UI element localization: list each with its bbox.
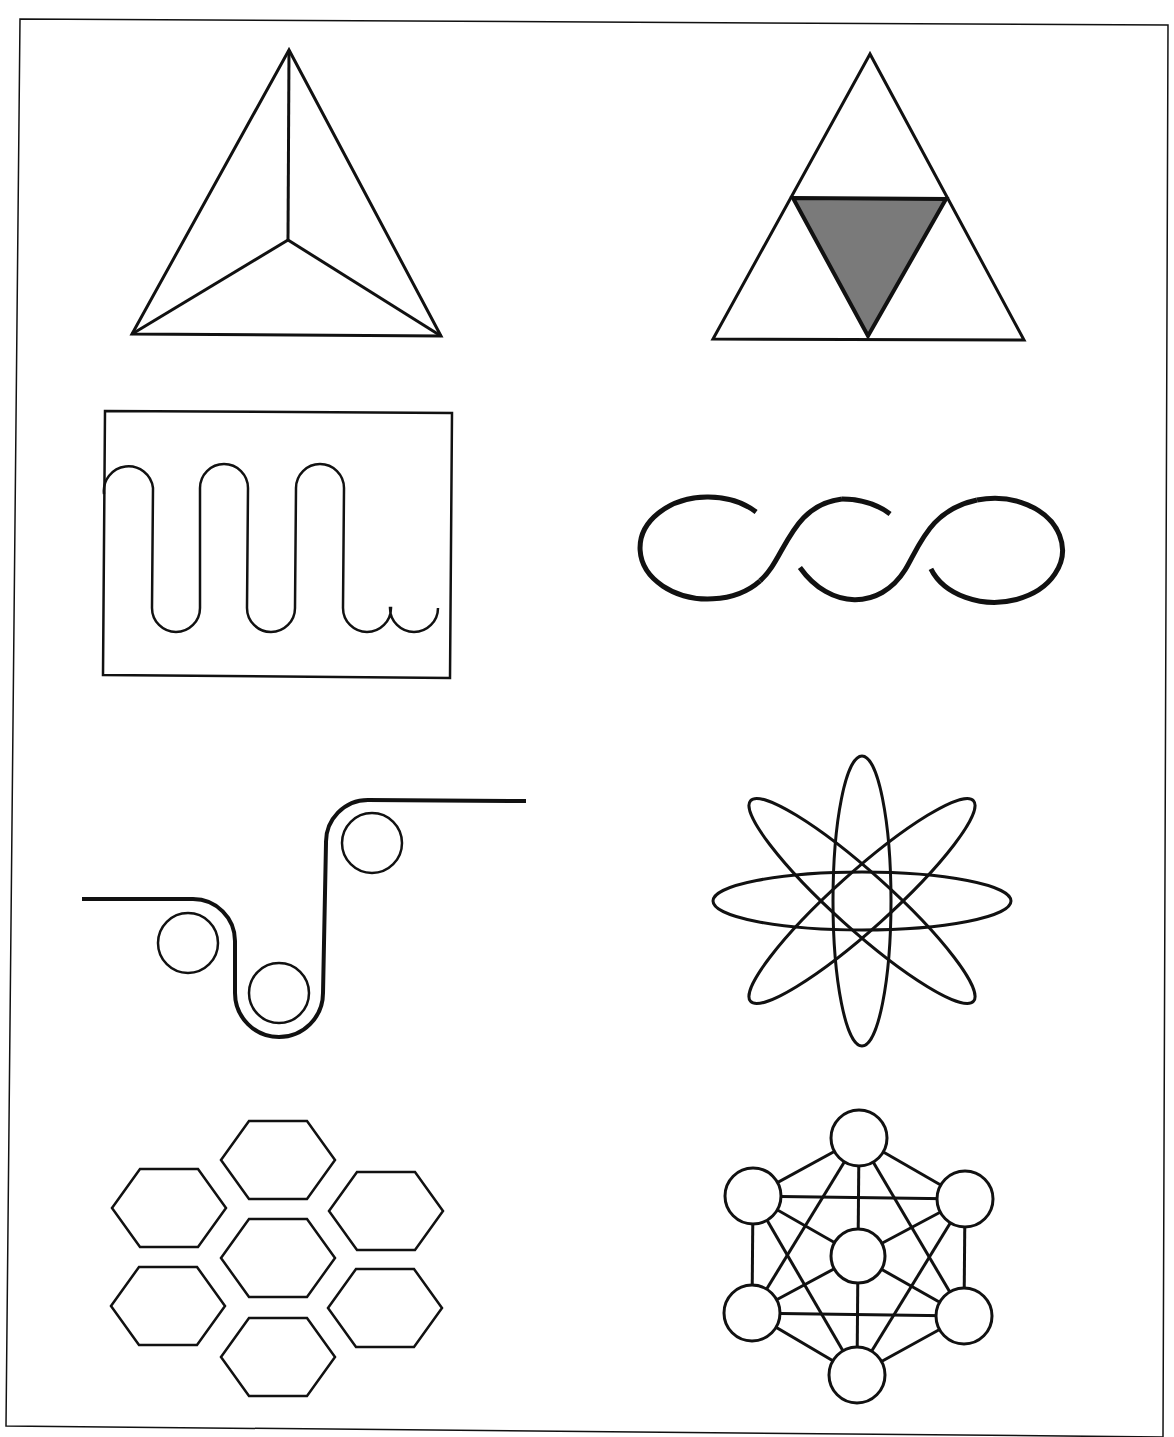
roller-circle (158, 913, 218, 973)
hexagon (328, 1269, 442, 1347)
hexagon (221, 1318, 335, 1396)
tetrahedron-figure (132, 50, 441, 336)
shaded-triangle-figure (713, 54, 1024, 340)
atom-figure (713, 756, 1011, 1046)
network-node (831, 1229, 885, 1283)
loop-right (931, 498, 1063, 602)
edge-line (132, 240, 288, 334)
page-frame (6, 19, 1168, 1437)
roller-path-figure (82, 800, 526, 1037)
orbit-ellipse (833, 756, 891, 1046)
node-network-figure (724, 1110, 993, 1403)
hexagon (221, 1219, 335, 1297)
serpentine-wave (104, 464, 438, 632)
belt-path (82, 800, 526, 1037)
edge-line (288, 240, 441, 336)
network-node (725, 1168, 781, 1224)
honeycomb-figure (111, 1121, 443, 1396)
orbit-ellipse (713, 872, 1011, 930)
orbit-ellipse (732, 780, 992, 1022)
network-edge (752, 1313, 964, 1316)
hexagon (111, 1267, 225, 1345)
orbit-ellipse (732, 780, 992, 1022)
edge-line (288, 50, 289, 240)
hexagon (112, 1169, 226, 1247)
serpentine-box-figure (103, 411, 452, 678)
shaded-triangle (793, 198, 946, 336)
loop-middle-top (842, 499, 890, 514)
figure-page (0, 0, 1174, 1437)
network-node (937, 1171, 993, 1227)
roller-circle (342, 813, 402, 873)
box-outline (103, 411, 452, 678)
twisted-loops-figure (640, 497, 1062, 602)
hexagon (221, 1121, 335, 1199)
hexagon (329, 1172, 443, 1250)
network-node (724, 1285, 780, 1341)
roller-circle (249, 963, 309, 1023)
loop-left (640, 497, 760, 599)
network-edge (753, 1196, 965, 1199)
network-node (936, 1288, 992, 1344)
outer-triangle (132, 50, 441, 336)
network-node (829, 1347, 885, 1403)
network-node (831, 1110, 887, 1166)
